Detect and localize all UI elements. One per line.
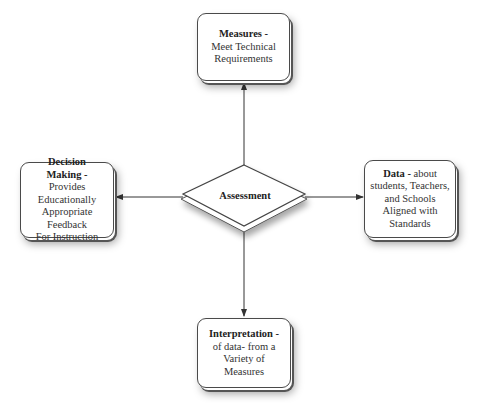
- decision-making-node: Decision Making - Provides Educationally…: [20, 162, 114, 238]
- interpretation-node: Interpretation - of data- from a Variety…: [197, 318, 291, 388]
- decision-making-title: Making -: [46, 169, 87, 182]
- measures-body-line: Meet Technical: [211, 41, 276, 54]
- data-node: Data - about students, Teachers, and Sch…: [364, 160, 456, 238]
- data-title: Data -: [383, 168, 411, 179]
- interpretation-body-line: Measures: [224, 366, 264, 379]
- interpretation-body-line: of data- from a: [213, 341, 276, 354]
- data-title-suffix: about: [411, 168, 437, 179]
- assessment-diagram: Assessment Measures - Meet Technical Req…: [0, 0, 479, 403]
- decision-making-body-line: Appropriate Feedback: [24, 206, 110, 231]
- assessment-label: Assessment: [205, 190, 285, 201]
- data-body-line: Standards: [389, 218, 430, 231]
- decision-making-body-line: For Instruction: [36, 231, 99, 244]
- interpretation-title: Interpretation -: [209, 328, 279, 341]
- measures-node: Measures - Meet Technical Requirements: [197, 13, 290, 81]
- interpretation-body-line: Variety of: [223, 353, 265, 366]
- measures-title: Measures -: [219, 28, 268, 41]
- decision-making-title: Decision: [48, 156, 86, 169]
- data-body-line: Aligned with: [382, 205, 437, 218]
- decision-making-body-line: Provides Educationally: [24, 181, 110, 206]
- measures-body-line: Requirements: [214, 53, 272, 66]
- data-title-line: Data - about: [383, 168, 437, 181]
- data-body-line: students, Teachers,: [370, 180, 449, 193]
- data-body-line: and Schools: [384, 193, 435, 206]
